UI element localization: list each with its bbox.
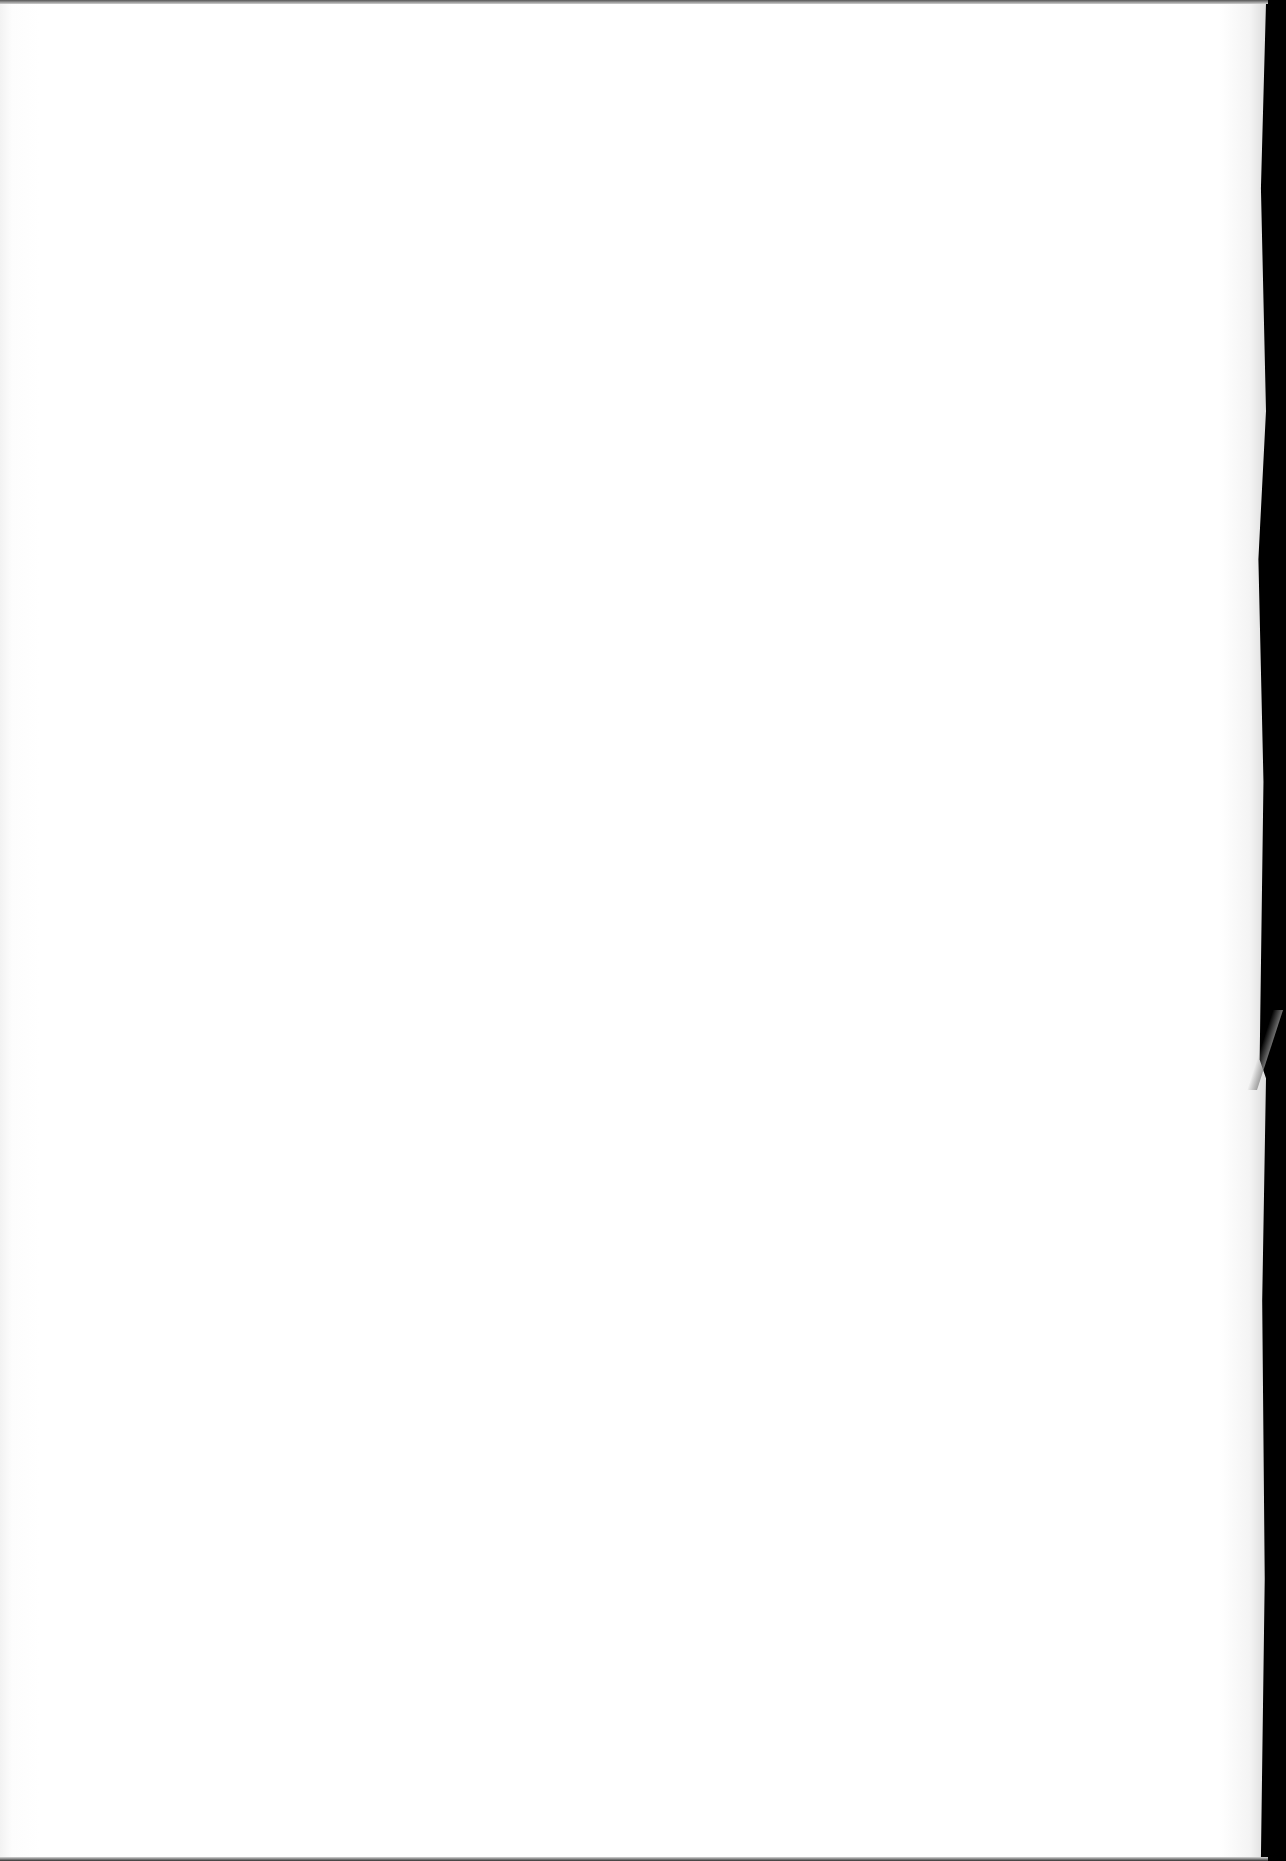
scanner-border-right xyxy=(1268,0,1286,1861)
page-top-edge xyxy=(0,0,1286,4)
blank-page xyxy=(0,3,1266,1857)
page-bottom-edge xyxy=(0,1857,1286,1861)
scanned-document xyxy=(0,0,1286,1861)
